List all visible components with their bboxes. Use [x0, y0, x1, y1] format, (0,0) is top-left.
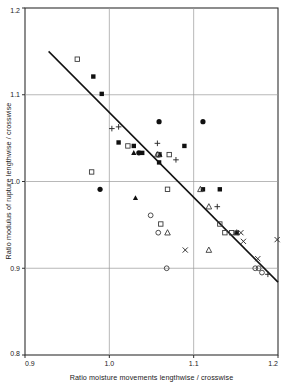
data-point-filled-square	[132, 144, 136, 148]
data-point-open-square	[126, 144, 130, 148]
data-point-open-triangle	[206, 204, 212, 209]
data-point-open-circle	[260, 270, 265, 275]
y-axis-label: Ratio modulus of rupture lengthwise / cr…	[4, 103, 13, 260]
data-point-filled-square	[218, 187, 222, 191]
data-point-open-triangle	[165, 230, 171, 235]
data-point-open-square	[167, 152, 171, 156]
data-points	[75, 57, 280, 277]
data-point-filled-circle	[136, 150, 141, 155]
axis-ticks	[22, 8, 278, 358]
data-point-cross	[275, 237, 280, 242]
data-point-filled-circle	[200, 119, 205, 124]
data-point-filled-square	[100, 92, 104, 96]
data-point-plus	[173, 157, 179, 163]
data-point-cross	[241, 239, 246, 244]
data-point-cross	[255, 256, 260, 261]
data-point-plus	[155, 141, 161, 147]
x-axis-label: Ratio moisture movements lengthwise / cr…	[70, 373, 234, 382]
data-point-plus	[214, 204, 220, 210]
trend-line	[49, 51, 278, 282]
y-tick-label: 0.9	[10, 265, 20, 272]
data-point-plus	[116, 124, 122, 130]
data-point-open-square	[159, 222, 163, 226]
x-tick-label: 1.2	[268, 360, 278, 367]
data-point-open-circle	[156, 230, 161, 235]
x-tick-labels: 0.91.01.11.2	[25, 360, 278, 367]
data-point-plus	[109, 126, 115, 132]
data-point-open-square	[89, 170, 93, 174]
x-tick-label: 1.1	[189, 360, 199, 367]
y-tick-label: 1.2	[10, 7, 20, 14]
y-tick-label: 0.8	[10, 350, 20, 357]
data-point-filled-square	[157, 160, 161, 164]
data-point-filled-circle	[97, 187, 102, 192]
scatter-plot: 0.91.01.11.2 0.80.91.01.11.2 Ratio moist…	[0, 0, 291, 388]
data-point-open-triangle	[206, 247, 212, 252]
data-point-filled-square	[182, 144, 186, 148]
x-tick-label: 0.9	[25, 360, 35, 367]
data-point-cross	[183, 247, 188, 252]
data-point-open-circle	[148, 213, 153, 218]
data-point-filled-triangle	[133, 195, 138, 200]
data-point-filled-circle	[156, 119, 161, 124]
data-point-open-square	[165, 187, 169, 191]
data-point-open-square	[75, 57, 79, 61]
data-point-cross	[238, 230, 243, 235]
y-tick-label: 1.1	[10, 91, 20, 98]
data-point-filled-triangle	[131, 150, 136, 155]
data-point-filled-square	[91, 74, 95, 78]
data-point-filled-square	[116, 140, 120, 144]
gridlines	[25, 8, 278, 355]
x-tick-label: 1.0	[104, 360, 114, 367]
chart-figure: 0.91.01.11.2 0.80.91.01.11.2 Ratio moist…	[0, 0, 291, 388]
data-point-plus	[265, 272, 271, 278]
